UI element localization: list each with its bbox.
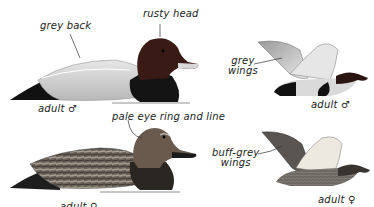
label-adult-female-flying: adult ♀ (318, 194, 355, 205)
label-rusty-head: rusty head (143, 8, 199, 19)
swimming-male-duck (10, 38, 198, 103)
leader-grey-back (70, 34, 80, 58)
label-buff-grey-wings-line2: wings (212, 158, 260, 168)
label-adult-male-flying: adult ♂ (311, 99, 350, 110)
label-buff-grey-wings: buff-grey wings (212, 148, 260, 168)
male-bill (178, 63, 198, 69)
label-grey-wings: grey wings (228, 56, 258, 76)
flying-male-duck (258, 41, 368, 96)
label-grey-wings-line2: wings (228, 66, 258, 76)
flying-female-duck (262, 132, 370, 186)
label-adult-male-swimming: adult ♂ (38, 103, 77, 114)
label-pale-eye-ring: pale eye ring and line (112, 111, 225, 122)
label-grey-back: grey back (40, 20, 91, 31)
male-eye (162, 50, 165, 53)
male-rusty-head (137, 38, 198, 80)
female-eye (163, 136, 166, 139)
label-adult-female-swimming: adult ♀ (60, 201, 97, 207)
swimming-female-duck (10, 128, 196, 192)
